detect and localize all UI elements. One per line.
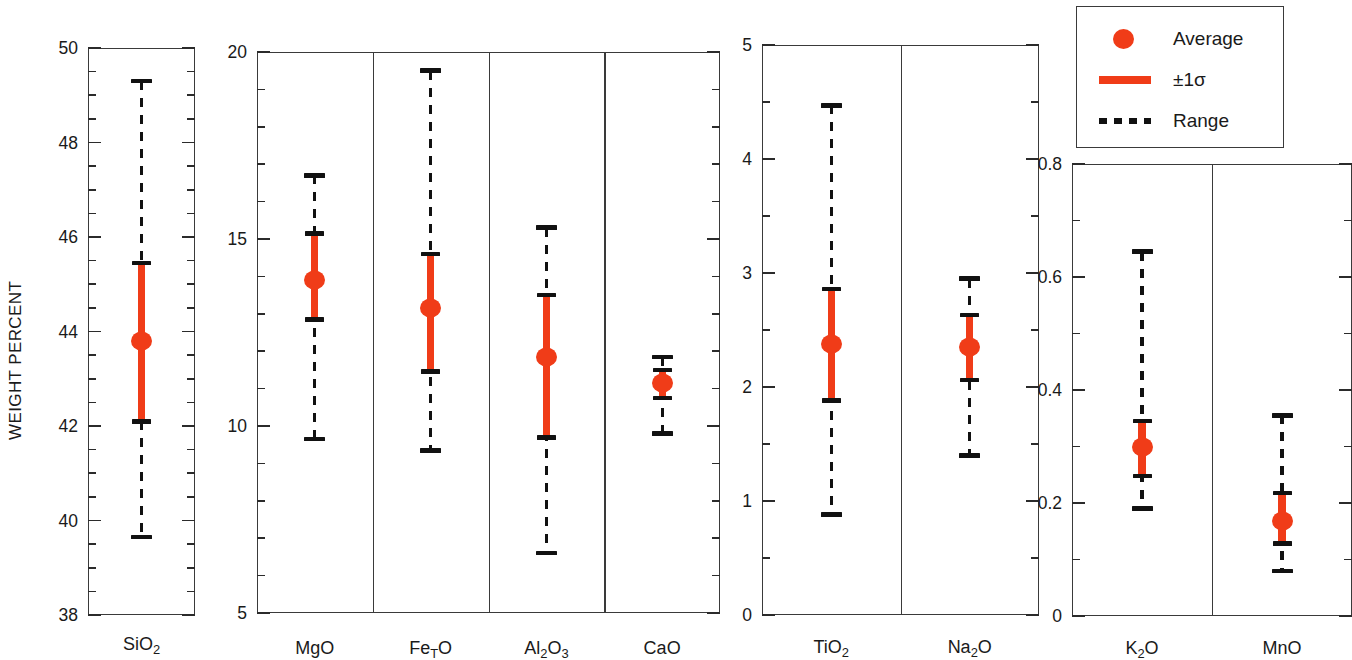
sigma-cap-low [132,419,151,424]
bar-icon [1099,76,1151,84]
minor-tick-left [257,89,265,91]
range-cap-min [304,437,325,442]
minor-tick-left [762,557,770,559]
minor-tick-left [88,402,96,404]
minor-tick-right [1031,215,1039,217]
circle-icon [1113,29,1134,49]
minor-tick-right [1344,220,1352,222]
minor-tick-left [88,94,96,96]
minor-tick-right [187,213,195,215]
sigma-cap-high [822,287,841,292]
minor-tick-left [88,260,96,262]
average-marker [821,334,842,353]
minor-tick-left [257,163,265,165]
category-label-MnO: MnO [1262,638,1301,659]
range-cap-min [1272,569,1293,574]
range-cap-min [420,448,441,453]
minor-tick-left [88,189,96,191]
y-tick-label: 50 [16,38,78,59]
minor-tick-left [1072,446,1080,448]
minor-tick-right [187,591,195,593]
y-tick-label: 4 [690,149,752,170]
minor-tick-right [187,118,195,120]
y-tick-label: 20 [185,42,247,63]
minor-tick-left [88,496,96,498]
major-tick-right [1339,615,1352,617]
minor-tick-left [88,354,96,356]
sigma-cap-high [537,293,556,298]
range-cap-max [652,355,673,360]
average-marker [131,331,152,350]
sigma-cap-low [1273,541,1292,546]
major-tick-left [88,520,101,522]
category-label-Na2O: Na2O [948,637,992,660]
range-cap-max [821,103,842,108]
y-tick-label: 5 [690,35,752,56]
minor-tick-right [187,496,195,498]
sigma-cap-low [1133,474,1152,479]
y-tick-label: 0.6 [1000,267,1062,288]
category-label-TiO2: TiO2 [813,637,849,660]
minor-tick-right [187,402,195,404]
legend-item-range: Range [1077,103,1283,139]
y-tick-label: 46 [16,227,78,248]
sigma-cap-high [1133,419,1152,424]
y-tick-label: 10 [185,416,247,437]
minor-tick-left [88,591,96,593]
y-tick-label: 3 [690,263,752,284]
major-tick-left [88,614,101,616]
range-cap-max [420,68,441,73]
major-tick-right [1339,502,1352,504]
major-tick-left [762,272,775,274]
minor-tick-left [88,283,96,285]
range-cap-min [1132,506,1153,511]
sigma-cap-low [822,398,841,403]
major-tick-left [88,47,101,49]
chart-legend: Average±1σRange [1076,6,1284,148]
y-tick-label: 5 [185,603,247,624]
range-cap-max [959,276,980,281]
major-tick-left [1072,276,1085,278]
sigma-cap-high [305,231,324,236]
minor-tick-right [712,463,720,465]
major-tick-right [1026,44,1039,46]
minor-tick-left [88,378,96,380]
average-marker [1272,512,1293,531]
major-tick-left [257,425,270,427]
minor-tick-left [88,472,96,474]
minor-tick-right [187,260,195,262]
minor-tick-left [1072,333,1080,335]
minor-tick-right [1031,101,1039,103]
minor-tick-right [712,350,720,352]
legend-item-1: ±1σ [1077,62,1283,98]
minor-tick-left [88,567,96,569]
major-tick-right [182,331,195,333]
average-marker [420,299,441,318]
category-label-K2O: K2O [1125,638,1158,660]
minor-tick-right [712,126,720,128]
minor-tick-right [1031,329,1039,331]
y-tick-label: 0.2 [1000,493,1062,514]
minor-tick-right [187,378,195,380]
minor-tick-left [88,543,96,545]
sigma-cap-high [132,261,151,266]
major-tick-left [257,51,270,53]
major-tick-left [762,44,775,46]
dotted-line-icon [1099,118,1151,124]
minor-tick-right [187,354,195,356]
panel-divider [373,52,374,613]
sigma-cap-high [653,368,672,373]
range-cap-max [1132,249,1153,254]
minor-tick-left [257,388,265,390]
minor-tick-left [257,201,265,203]
minor-tick-left [257,537,265,539]
legend-label: Range [1173,103,1229,139]
minor-tick-left [257,126,265,128]
minor-tick-right [187,71,195,73]
range-cap-min [959,453,980,458]
y-tick-label: 0.8 [1000,154,1062,175]
major-tick-right [1339,163,1352,165]
major-tick-left [1072,389,1085,391]
minor-tick-right [712,89,720,91]
minor-tick-left [762,215,770,217]
